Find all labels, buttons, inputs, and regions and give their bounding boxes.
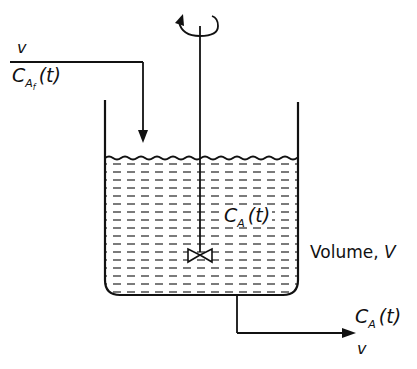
feed-conc-sub: Af (25, 77, 35, 90)
feed-conc-arg: (t) (39, 64, 61, 86)
tank-concentration-label: CA(t) (222, 206, 272, 225)
flow-arrow-icon (342, 328, 356, 338)
outlet-line (237, 295, 356, 338)
cstr-diagram: v CAf(t) CA(t) Volume, V CA(t) v (0, 0, 417, 369)
liquid-body (105, 160, 298, 295)
feed-concentration-label: CAf(t) (12, 66, 61, 85)
outlet-flow-label: v (357, 341, 366, 357)
volume-label: Volume, V (310, 244, 396, 261)
rotation-arrow-icon (175, 14, 218, 36)
liquid-surface (105, 157, 298, 160)
feed-flow-label: v (17, 40, 26, 56)
flow-arrow-icon (138, 130, 148, 143)
feed-conc-main: C (12, 64, 25, 86)
outlet-concentration-label: CA(t) (355, 307, 401, 326)
